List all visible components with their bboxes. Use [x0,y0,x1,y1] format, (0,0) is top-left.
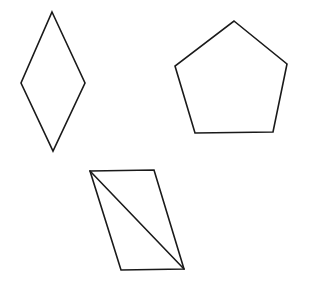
figure-canvas [0,0,317,286]
shapes-svg [0,0,317,286]
pentagon-shape [175,21,287,133]
rhombus-shape [21,12,85,151]
